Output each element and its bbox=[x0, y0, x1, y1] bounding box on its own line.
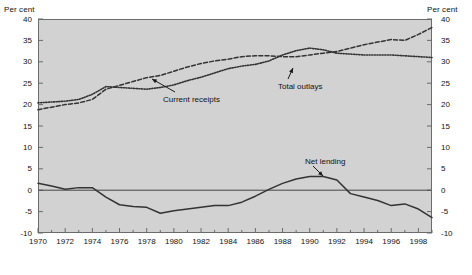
y-tick-label-left: 10 bbox=[6, 143, 32, 152]
y-tick-label-right: -5 bbox=[441, 207, 467, 216]
y-tick-label-right: 25 bbox=[441, 79, 467, 88]
y-tick-label-left: -5 bbox=[6, 207, 32, 216]
y-axis-title-right: Per cent bbox=[427, 5, 458, 14]
y-tick-label-right: 15 bbox=[441, 122, 467, 131]
y-tick-label-right: 10 bbox=[441, 143, 467, 152]
annotation-label-current-receipts: Current receipts bbox=[163, 95, 220, 104]
y-tick-label-left: 0 bbox=[6, 186, 32, 195]
y-tick-label-right: 40 bbox=[441, 15, 467, 24]
y-tick-label-left: 15 bbox=[6, 122, 32, 131]
y-tick-label-left: 20 bbox=[6, 100, 32, 109]
y-axis-title-left: Per cent bbox=[4, 5, 35, 14]
y-tick-label-right: 35 bbox=[441, 36, 467, 45]
x-tick-label: 1998 bbox=[398, 237, 438, 246]
plot-area bbox=[38, 19, 432, 233]
y-tick-label-right: 20 bbox=[441, 100, 467, 109]
figure-canvas: Per cent Per cent -10-10-5-5005510101515… bbox=[0, 0, 472, 275]
y-tick-label-left: 30 bbox=[6, 57, 32, 66]
y-tick-label-right: 30 bbox=[441, 57, 467, 66]
annotation-label-net-lending: Net lending bbox=[305, 157, 345, 166]
y-tick-label-right: 0 bbox=[441, 186, 467, 195]
y-tick-label-left: 5 bbox=[6, 164, 32, 173]
y-tick-label-left: 35 bbox=[6, 36, 32, 45]
y-tick-label-left: 25 bbox=[6, 79, 32, 88]
y-tick-label-left: 40 bbox=[6, 15, 32, 24]
y-tick-label-right: -10 bbox=[441, 229, 467, 238]
y-tick-label-right: 5 bbox=[441, 164, 467, 173]
annotation-label-total-outlays: Total outlays bbox=[278, 82, 322, 91]
